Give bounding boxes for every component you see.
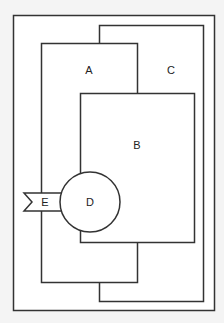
label-c: C <box>167 64 175 76</box>
label-a: A <box>85 64 93 76</box>
label-d: D <box>86 196 94 208</box>
nested-shapes-diagram: C A B E D <box>0 0 224 323</box>
shape-d-circle: D <box>60 172 120 232</box>
label-b: B <box>133 139 140 151</box>
label-e: E <box>41 196 48 208</box>
